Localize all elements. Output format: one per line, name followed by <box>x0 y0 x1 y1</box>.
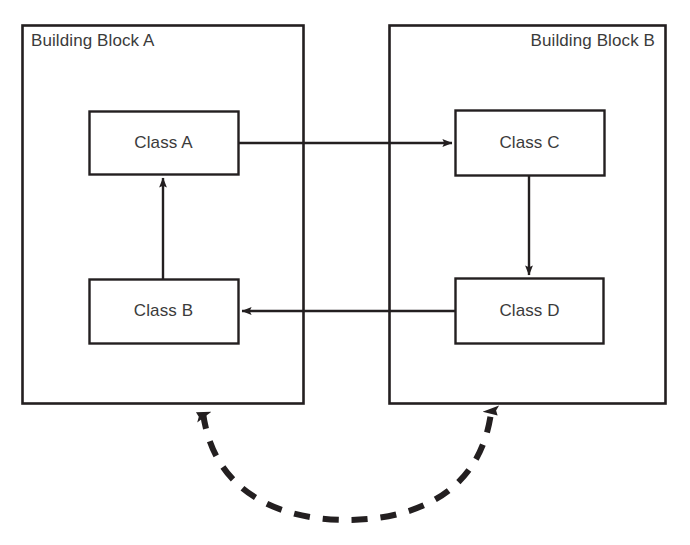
class-b-label: Class B <box>89 301 238 321</box>
block-b-label: Building Block B <box>531 31 655 51</box>
class-c-label: Class C <box>455 133 604 153</box>
block-a-label: Building Block A <box>31 31 155 51</box>
class-d-label: Class D <box>455 301 604 321</box>
block-b-outline <box>390 26 666 404</box>
diagram-graphics-layer <box>0 0 690 545</box>
class-a-label: Class A <box>89 133 238 153</box>
arrow-block-a-to-block-b-dashed <box>203 413 491 520</box>
diagram-canvas: Building Block A Building Block B Class … <box>0 0 690 545</box>
